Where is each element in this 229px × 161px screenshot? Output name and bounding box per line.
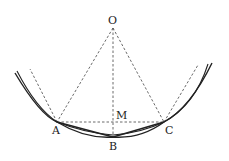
- arc-outer: [15, 63, 212, 137]
- arc-inner: [17, 64, 208, 135]
- radius-OA: [57, 28, 113, 122]
- diagram-canvas: O A B C M: [0, 0, 229, 161]
- geometry-figure: O A B C M: [0, 0, 229, 161]
- label-A: A: [51, 124, 61, 137]
- extension-A: [30, 69, 57, 122]
- radius-OC: [113, 28, 164, 122]
- label-O: O: [108, 14, 117, 27]
- label-C: C: [165, 124, 173, 137]
- extension-C: [164, 65, 198, 122]
- label-M: M: [116, 109, 127, 122]
- label-B: B: [109, 140, 117, 153]
